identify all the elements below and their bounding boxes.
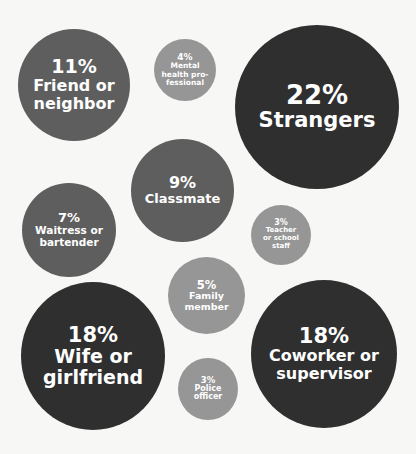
bubble-label-line: fessional [166, 79, 204, 87]
bubble-percent: 18% [68, 324, 118, 346]
bubble-label-line: Wife or [54, 346, 132, 367]
bubble-label-line: officer [194, 393, 223, 402]
bubble-label-line: supervisor [276, 365, 371, 383]
bubble-percent: 22% [286, 82, 348, 109]
bubble-label-line: girlfriend [43, 367, 143, 388]
bubble-label-line: Coworker or [269, 347, 379, 365]
bubble-percent: 7% [58, 211, 80, 225]
bubble-label-line: neighbor [34, 95, 115, 113]
bubble-strangers: 22% Strangers [235, 25, 399, 189]
bubble-label-line: Classmate [145, 192, 221, 207]
bubble-label-line: Strangers [259, 109, 376, 133]
bubble-label-line: Family [189, 291, 224, 302]
bubble-percent: 9% [169, 175, 196, 192]
bubble-mental-health-professional: 4% Mental health pro- fessional [154, 39, 216, 101]
bubble-coworker-or-supervisor: 18% Coworker or supervisor [251, 280, 397, 428]
bubble-label-line: staff [272, 243, 290, 251]
bubble-label-line: member [184, 302, 228, 313]
bubble-percent: 18% [299, 325, 349, 347]
bubble-family-member: 5% Family member [168, 257, 245, 334]
bubble-police-officer: 3% Police officer [178, 358, 238, 420]
bubble-friend-or-neighbor: 11% Friend or neighbor [18, 29, 130, 141]
bubble-waitress-or-bartender: 7% Waitress or bartender [22, 183, 116, 277]
bubble-classmate: 9% Classmate [131, 139, 234, 242]
bubble-label-line: Friend or [33, 77, 114, 95]
bubble-percent: 11% [51, 57, 96, 77]
bubble-label-line: bartender [39, 237, 98, 249]
bubble-wife-or-girlfriend: 18% Wife or girlfriend [21, 282, 165, 430]
bubble-teacher-or-school-staff: 3% Teacher or school staff [251, 205, 311, 265]
